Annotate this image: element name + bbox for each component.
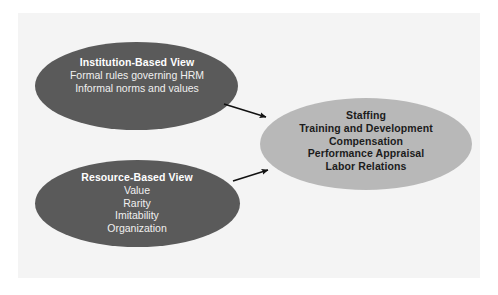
resource-line-3: Imitability: [43, 209, 231, 222]
node-resource-based-view-label: Resource-Based View Value Rarity Imitabi…: [43, 171, 231, 235]
resource-title: Resource-Based View: [43, 171, 231, 184]
arrow-resource-to-hrm: [233, 170, 268, 181]
node-institution-based-view-label: Institution-Based View Formal rules gove…: [43, 56, 231, 94]
node-hrm-practices-label: Staffing Training and Development Compen…: [265, 109, 467, 173]
resource-line-1: Value: [43, 184, 231, 197]
diagram-figure: Institution-Based View Formal rules gove…: [0, 0, 498, 295]
resource-line-2: Rarity: [43, 197, 231, 210]
hrm-line-5: Labor Relations: [265, 160, 467, 173]
institution-line-1: Formal rules governing HRM: [43, 69, 231, 82]
resource-line-4: Organization: [43, 222, 231, 235]
hrm-line-4: Performance Appraisal: [265, 147, 467, 160]
hrm-line-3: Compensation: [265, 135, 467, 148]
hrm-line-2: Training and Development: [265, 122, 467, 135]
institution-title: Institution-Based View: [43, 56, 231, 69]
hrm-line-1: Staffing: [265, 109, 467, 122]
institution-line-2: Informal norms and values: [43, 82, 231, 95]
arrow-institution-to-hrm: [224, 104, 266, 117]
